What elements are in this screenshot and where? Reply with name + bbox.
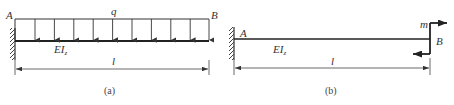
stiffness-subscript: z [64, 49, 67, 57]
length-label: l [112, 56, 115, 67]
fixed-support-icon [10, 28, 15, 60]
stiffness-ei: EI [273, 43, 283, 55]
caption-b: (b) [325, 86, 337, 96]
stiffness-label: EIz [273, 44, 286, 57]
point-a-label: A [240, 28, 247, 39]
stiffness-label: EIz [54, 44, 67, 57]
fixed-support-icon [229, 27, 234, 60]
stiffness-subscript: z [283, 49, 286, 57]
caption-a: (a) [104, 86, 115, 96]
point-a-label: A [6, 10, 13, 21]
figure-b [229, 23, 447, 75]
beam-diagrams [0, 0, 454, 105]
stiffness-ei: EI [54, 43, 64, 55]
figure-a [10, 19, 209, 75]
length-label: l [331, 56, 334, 67]
load-q-label: q [111, 6, 117, 17]
point-b-label: B [436, 36, 443, 47]
point-b-label: B [211, 10, 218, 21]
moment-m-label: m [420, 19, 428, 30]
distributed-load-arrows-icon [35, 19, 209, 40]
